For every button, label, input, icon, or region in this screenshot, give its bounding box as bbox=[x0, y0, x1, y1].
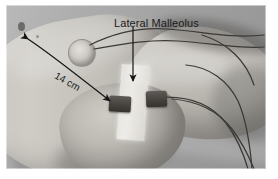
figure-container: Lateral Malleolus 14 cm bbox=[0, 0, 278, 179]
lateral-malleolus-label: Lateral Malleolus bbox=[114, 17, 199, 29]
overlay-graphics bbox=[6, 5, 266, 169]
lead-wires bbox=[90, 29, 264, 169]
clinical-photograph: Lateral Malleolus 14 cm bbox=[6, 5, 266, 169]
